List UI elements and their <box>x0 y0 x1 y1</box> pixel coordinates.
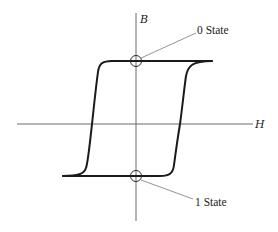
diagram-canvas: B H 0 State 1 State <box>0 0 278 232</box>
one-state-leader <box>141 180 193 199</box>
zero-state-label: 0 State <box>197 24 229 36</box>
one-state-label: 1 State <box>195 196 227 208</box>
zero-state-leader <box>141 33 196 58</box>
b-axis-label: B <box>139 13 148 26</box>
hysteresis-upper-branch <box>63 61 212 176</box>
h-axis-label: H <box>254 118 265 131</box>
hysteresis-diagram: B H 0 State 1 State <box>0 0 278 232</box>
hysteresis-lower-branch <box>63 61 212 176</box>
